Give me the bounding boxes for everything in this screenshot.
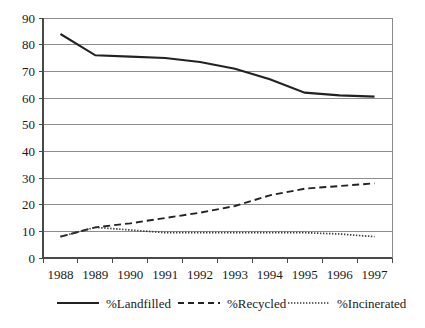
gridlines [43,18,392,231]
x-tick-label: 1997 [362,267,389,282]
y-tick-label: 60 [22,91,35,106]
x-axis-ticks: 1988198919901991199219931994199519961997 [43,258,392,282]
legend-label-landfilled: %Landfilled [106,296,171,311]
y-tick-label: 0 [29,251,36,266]
y-tick-label: 90 [22,11,35,26]
y-tick-label: 40 [22,144,35,159]
x-tick-label: 1990 [117,267,143,282]
y-axis-ticks: 0102030405060708090 [22,11,43,266]
series-line-landfilled [60,34,374,97]
plot-area-border [43,18,392,258]
x-tick-label: 1993 [222,267,248,282]
x-tick-label: 1996 [327,267,354,282]
y-tick-label: 10 [22,224,35,239]
series-line-incinerated [60,227,374,236]
legend-item-incinerated[interactable]: %Incinerated [288,296,407,311]
chart-legend: %Landfilled %Recycled %Incinerated [57,296,407,311]
x-tick-label: 1994 [257,267,284,282]
x-tick-label: 1991 [152,267,178,282]
y-tick-label: 50 [22,117,35,132]
y-tick-label: 20 [22,197,35,212]
legend-item-landfilled[interactable]: %Landfilled [57,296,171,311]
x-tick-label: 1988 [47,267,73,282]
chart-canvas: 0102030405060708090 19881989199019911992… [0,0,425,328]
y-tick-label: 30 [22,171,35,186]
legend-label-recycled: %Recycled [227,296,287,311]
x-tick-label: 1992 [187,267,213,282]
axis-lines [43,18,392,258]
legend-label-incinerated: %Incinerated [337,296,407,311]
x-tick-label: 1989 [82,267,108,282]
series-lines [60,34,374,237]
line-chart: 0102030405060708090 19881989199019911992… [0,0,425,328]
x-tick-label: 1995 [292,267,318,282]
y-tick-label: 70 [22,64,35,79]
y-tick-label: 80 [22,37,35,52]
legend-item-recycled[interactable]: %Recycled [178,296,287,311]
